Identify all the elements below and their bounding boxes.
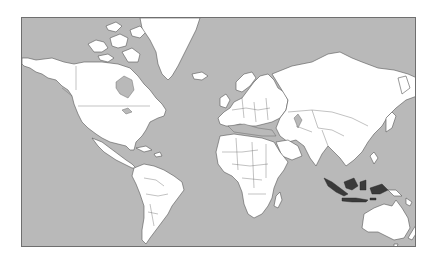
world-map <box>21 17 416 247</box>
tasmania <box>394 244 398 247</box>
map-canvas <box>22 18 416 247</box>
